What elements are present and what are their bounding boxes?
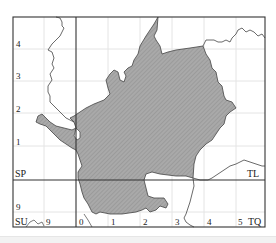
stream-s xyxy=(84,214,92,227)
river-south xyxy=(184,178,194,227)
stream-sw xyxy=(26,220,44,227)
y-label-3: 3 xyxy=(16,72,21,81)
x-label-2: 2 xyxy=(143,218,148,227)
y-label-2: 2 xyxy=(16,105,21,114)
x-label-5: 5 xyxy=(238,218,243,227)
y-label-1: 1 xyxy=(16,138,21,147)
x-label-9: 9 xyxy=(46,218,51,227)
bottom-strip xyxy=(0,236,276,243)
x-label-3: 3 xyxy=(175,218,180,227)
square-label-tq: TQ xyxy=(248,217,261,227)
y-label-4: 4 xyxy=(16,40,21,49)
square-label-tl: TL xyxy=(247,169,259,179)
river-west xyxy=(48,17,74,122)
x-label-1: 1 xyxy=(111,218,116,227)
x-label-4: 4 xyxy=(207,218,212,227)
boundary-east xyxy=(203,28,265,46)
square-label-su: SU xyxy=(15,217,28,227)
hatched-area xyxy=(36,17,236,214)
square-label-sp: SP xyxy=(15,169,26,179)
x-label-0: 0 xyxy=(79,218,84,227)
y-label-9: 9 xyxy=(16,203,21,212)
